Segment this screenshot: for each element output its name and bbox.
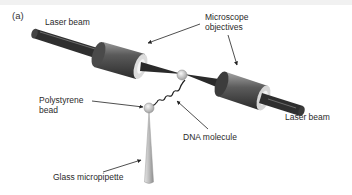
arrow-objectives-left [148, 24, 200, 43]
label-laser-beam-left: Laser beam [45, 18, 90, 28]
trapped-bead [177, 70, 187, 80]
dna-molecule [152, 80, 185, 106]
label-dna-molecule: DNA molecule [183, 133, 237, 143]
right-objective [212, 70, 273, 112]
label-objectives-line2: objectives [205, 23, 248, 33]
arrow-glass-micropipette [103, 160, 141, 172]
glass-micropipette [145, 111, 154, 184]
arrow-dna-molecule [177, 101, 208, 129]
arrow-polystyrene-bead [92, 101, 143, 107]
label-laser-beam-right: Laser beam [285, 113, 330, 123]
label-polystyrene-bead: Polystyrene bead [39, 96, 83, 115]
left-objective [89, 40, 150, 80]
label-microscope-objectives: Microscope objectives [205, 13, 248, 32]
label-bead-line2: bead [39, 106, 83, 116]
left-focused-beam [140, 62, 182, 74]
panel-label: (a) [12, 10, 24, 21]
polystyrene-bead [144, 103, 154, 113]
arrow-objectives-right [228, 35, 237, 65]
label-glass-micropipette: Glass micropipette [53, 173, 123, 183]
